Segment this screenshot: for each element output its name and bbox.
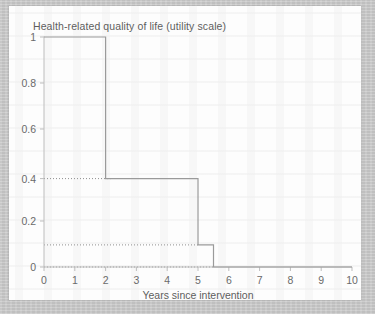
x-tick-label-8: 8 bbox=[287, 274, 293, 286]
y-axis-tick-labels: 1 0.8 0.6 0.4 0.2 0 bbox=[21, 31, 36, 273]
reference-lines bbox=[44, 179, 214, 267]
y-tick-label-0.2: 0.2 bbox=[21, 215, 36, 227]
x-tick-label-1: 1 bbox=[72, 274, 78, 286]
screenshot-root: Health-related quality of life (utility … bbox=[0, 0, 375, 314]
x-axis-tick-labels: 0 1 2 3 4 5 6 7 8 9 10 bbox=[41, 274, 358, 286]
x-tick-label-3: 3 bbox=[133, 274, 139, 286]
x-tick-label-4: 4 bbox=[164, 274, 170, 286]
y-tick-label-0: 0 bbox=[30, 261, 36, 273]
step-chart-plot: 1 0.8 0.6 0.4 0.2 0 bbox=[9, 6, 361, 300]
y-axis-ticks bbox=[40, 37, 44, 267]
x-tick-label-5: 5 bbox=[195, 274, 201, 286]
y-tick-label-1: 1 bbox=[30, 31, 36, 43]
x-tick-label-2: 2 bbox=[103, 274, 109, 286]
x-tick-label-10: 10 bbox=[346, 274, 358, 286]
y-tick-label-0.4: 0.4 bbox=[21, 173, 36, 185]
utility-step-curve bbox=[44, 37, 352, 267]
y-tick-label-0.6: 0.6 bbox=[21, 123, 36, 135]
x-axis-title: Years since intervention bbox=[142, 289, 253, 300]
y-tick-label-0.8: 0.8 bbox=[21, 77, 36, 89]
x-tick-label-6: 6 bbox=[226, 274, 232, 286]
figure-card: Health-related quality of life (utility … bbox=[9, 6, 361, 300]
x-tick-label-7: 7 bbox=[257, 274, 263, 286]
x-tick-label-9: 9 bbox=[318, 274, 324, 286]
x-tick-label-0: 0 bbox=[41, 274, 47, 286]
